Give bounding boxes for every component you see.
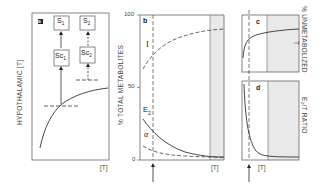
panel-a-letter: a	[38, 18, 41, 24]
curve-label-I: I	[146, 40, 149, 49]
label-sc1: Sc1	[55, 52, 66, 61]
label-s2: S2	[83, 17, 90, 26]
panel-b-ylabel: % TOTAL METABOLITES	[117, 45, 124, 125]
panel-a-curve	[40, 88, 108, 148]
panel-b-shaded-region	[210, 15, 224, 160]
panel-a	[32, 13, 109, 160]
panel-c	[242, 10, 299, 76]
panel-d	[242, 76, 299, 182]
panel-d-ylabel: E₂/T RATIO	[301, 97, 308, 134]
panel-a-frame	[32, 13, 109, 160]
ytick-100: 100	[124, 11, 134, 17]
label-sc2: Sc2	[81, 49, 92, 58]
curve-label-alpha: α	[144, 130, 148, 139]
panel-d-xlabel: [T]	[258, 164, 266, 171]
panel-c-ylabel-T: T	[293, 41, 300, 45]
panel-b-xlabel: [T]	[211, 164, 219, 171]
panel-b	[137, 15, 224, 182]
panel-d-letter: d	[256, 84, 260, 91]
panel-d-shaded-region	[268, 81, 299, 160]
ytick-50: 50	[128, 83, 135, 89]
panel-c-ylabel: % UNMETABOLIZED	[301, 6, 308, 73]
ytick-0: 0	[132, 156, 135, 162]
curve-label-E2: E2	[143, 105, 151, 116]
label-s1: S1	[57, 17, 64, 26]
panel-b-letter: b	[143, 17, 147, 24]
panel-a-xlabel: [T]	[100, 164, 108, 171]
figure-canvas	[0, 0, 330, 187]
panel-c-letter: c	[256, 18, 260, 25]
panel-a-ylabel: HYPOTHALAMIC [T]	[16, 60, 23, 125]
